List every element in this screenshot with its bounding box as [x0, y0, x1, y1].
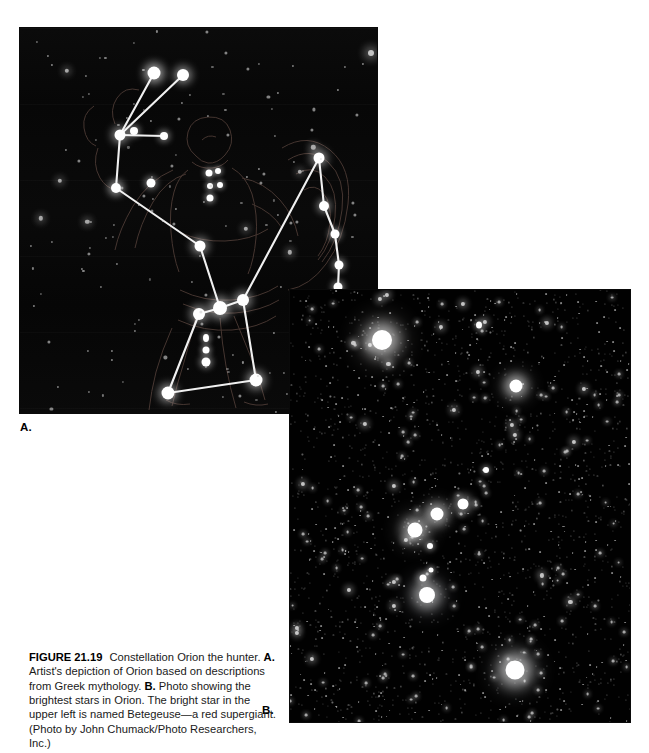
figure-caption: FIGURE 21.19Constellation Orion the hunt… [29, 650, 281, 750]
caption-tag-a: A. [264, 651, 275, 663]
night-sky-background-b [290, 290, 630, 722]
panel-b-orion-photograph [290, 290, 630, 722]
figure-number: FIGURE 21.19 [29, 651, 102, 663]
figure-21-19: A. B. FIGURE 21.19Constellation Orion th… [0, 0, 649, 753]
photo-credit: (Photo by John Chumack/Photo Researchers… [29, 723, 257, 749]
caption-tag-b: B. [144, 680, 155, 692]
panel-a-label: A. [20, 421, 32, 433]
figure-title-text: Constellation Orion the hunter. [109, 651, 260, 663]
